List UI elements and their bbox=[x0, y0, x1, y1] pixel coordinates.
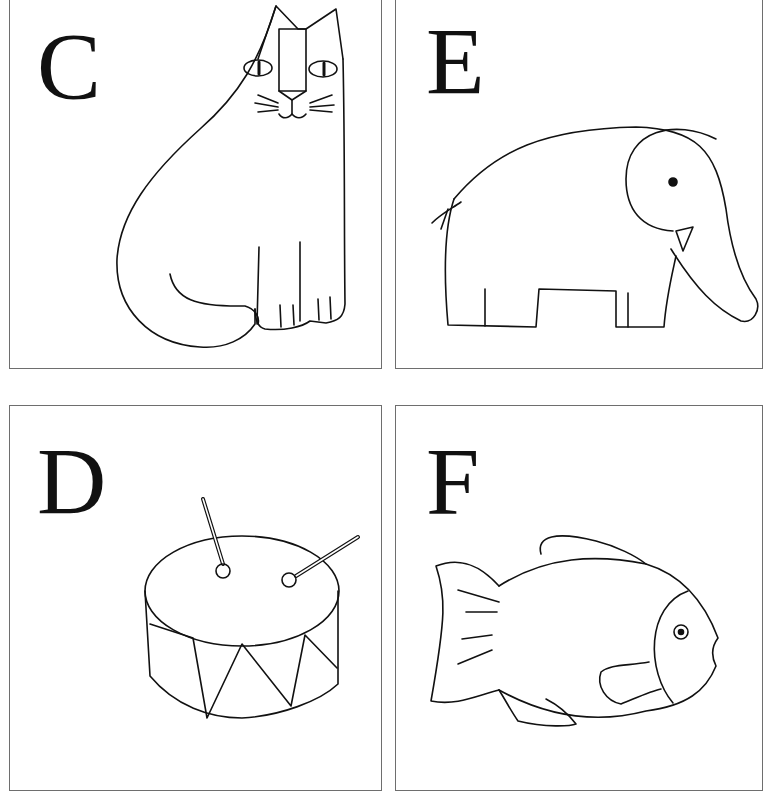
card-e-elephant: E bbox=[395, 0, 763, 369]
elephant-illustration bbox=[396, 0, 763, 369]
card-d-drum: D bbox=[9, 405, 382, 791]
fish-illustration bbox=[396, 406, 763, 791]
card-c-cat: C bbox=[9, 0, 382, 369]
drum-illustration bbox=[10, 406, 382, 791]
card-f-fish: F bbox=[395, 405, 763, 791]
cat-illustration bbox=[10, 0, 382, 369]
